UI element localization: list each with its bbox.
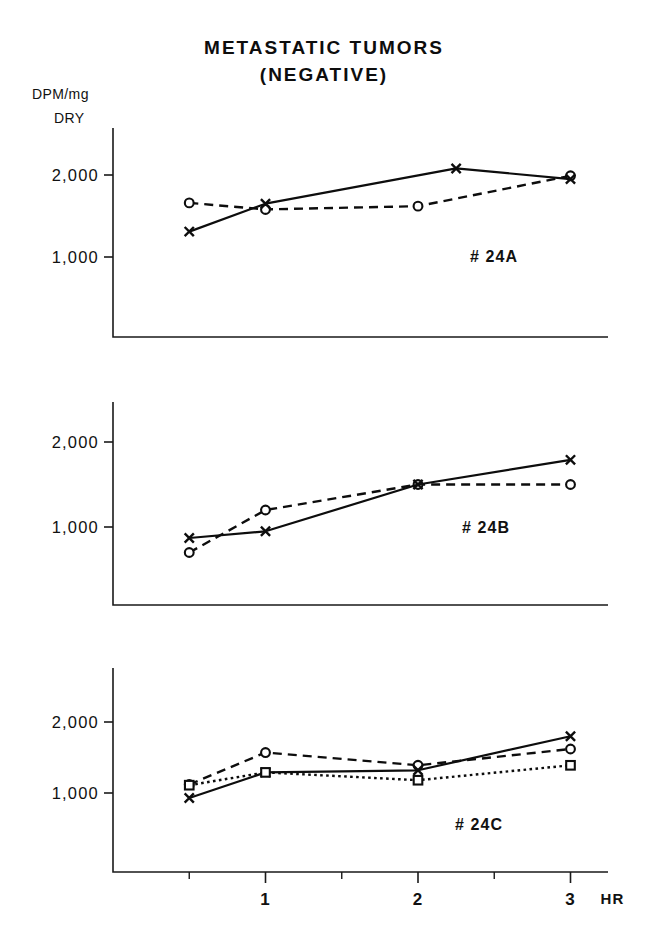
y-tick-label: 1,000 <box>52 784 99 802</box>
data-point-circle-marker <box>261 506 270 515</box>
y-tick-label: 1,000 <box>52 518 99 536</box>
x-tick-label: 2 <box>413 890 423 909</box>
panel-label: # 24B <box>462 519 510 536</box>
data-point-circle-marker <box>566 745 575 754</box>
data-point-circle-marker <box>185 548 194 557</box>
axis-spines <box>113 402 608 605</box>
series-line-open-square-dotted <box>189 765 570 785</box>
panel-label: # 24C <box>455 816 503 833</box>
panel-2: 1,0002,000# 24B <box>52 402 608 605</box>
y-tick-label: 2,000 <box>52 433 99 451</box>
data-point-square-marker <box>414 776 423 785</box>
x-tick-label: 3 <box>565 890 575 909</box>
data-point-circle-marker <box>261 748 270 757</box>
data-point-circle-marker <box>185 198 194 207</box>
data-point-square-marker <box>185 781 194 790</box>
data-point-square-marker <box>566 761 575 770</box>
panel-label: # 24A <box>470 248 518 265</box>
panel-1: 1,0002,000# 24A <box>52 128 608 337</box>
data-point-circle-marker <box>566 480 575 489</box>
series-line-open-circle-dashed <box>189 176 570 210</box>
y-tick-label: 2,000 <box>52 166 99 184</box>
figure-metastatic-tumors: METASTATIC TUMORS (NEGATIVE) DPM/mg DRY … <box>0 0 648 950</box>
x-tick-label: 1 <box>260 890 270 909</box>
data-point-square-marker <box>261 768 270 777</box>
y-tick-label: 1,000 <box>52 248 99 266</box>
x-axis-unit-label: HR <box>601 890 625 907</box>
series-line-x-solid <box>189 460 570 538</box>
y-tick-label: 2,000 <box>52 713 99 731</box>
series-line-open-circle-dashed <box>189 485 570 553</box>
plot-canvas: 1,0002,000# 24A1,0002,000# 24B1,0002,000… <box>0 0 648 950</box>
panel-3: 1,0002,000123HR# 24C <box>52 668 625 909</box>
series-line-x-solid <box>189 736 570 798</box>
data-point-circle-marker <box>414 202 423 211</box>
series-line-x-solid <box>189 168 570 231</box>
